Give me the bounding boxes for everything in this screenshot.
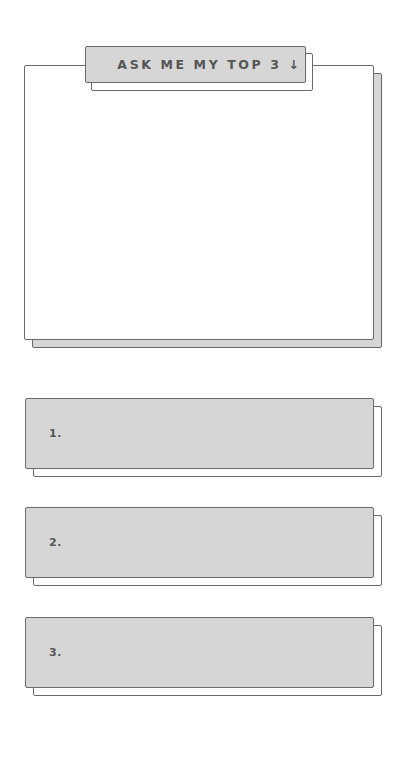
header-tab: ASK ME MY TOP 3 ↓ — [85, 46, 306, 83]
top-item-2[interactable]: 2. — [25, 507, 374, 578]
top-item-1[interactable]: 1. — [25, 398, 374, 469]
top-item-3[interactable]: 3. — [25, 617, 374, 688]
top-item-number: 1. — [49, 427, 62, 440]
top-item-number: 3. — [49, 646, 62, 659]
top-item-number: 2. — [49, 536, 62, 549]
answer-card[interactable] — [24, 65, 374, 340]
header-title: ASK ME MY TOP 3 ↓ — [89, 57, 301, 72]
